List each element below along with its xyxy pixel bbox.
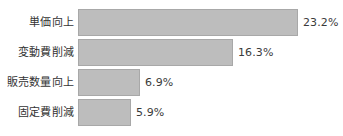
bar-fill (78, 69, 140, 96)
bar-track (78, 69, 140, 96)
value-label: 16.3% (238, 39, 273, 66)
chart-plot-area: 単価向上 23.2% 変動費削減 16.3% 販売数量向上 6.9% 固定費削減 (0, 0, 343, 136)
bar-fill (78, 99, 131, 126)
bar-row: 販売数量向上 6.9% (0, 69, 343, 96)
category-label: 変動費削減 (0, 39, 74, 66)
bar-row: 変動費削減 16.3% (0, 39, 343, 66)
bar-track (78, 99, 131, 126)
value-label: 5.9% (136, 99, 164, 126)
bar-fill (78, 9, 298, 36)
bar-fill (78, 39, 233, 66)
category-label: 販売数量向上 (0, 69, 74, 96)
value-label: 6.9% (145, 69, 173, 96)
bar-track (78, 39, 233, 66)
bar-row: 単価向上 23.2% (0, 9, 343, 36)
bar-track (78, 9, 298, 36)
value-label: 23.2% (303, 9, 338, 36)
category-label: 単価向上 (0, 9, 74, 36)
bar-chart: 単価向上 23.2% 変動費削減 16.3% 販売数量向上 6.9% 固定費削減 (0, 0, 343, 136)
category-label: 固定費削減 (0, 99, 74, 126)
bar-row: 固定費削減 5.9% (0, 99, 343, 126)
